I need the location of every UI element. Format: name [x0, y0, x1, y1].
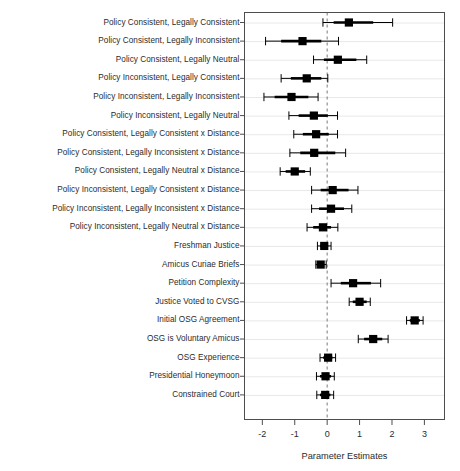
point-estimate-marker	[345, 18, 353, 26]
point-estimate-marker	[312, 130, 320, 138]
category-label: Presidential Honeymoon	[149, 372, 239, 380]
category-label: Constrained Court	[172, 391, 239, 399]
category-label: Policy Inconsistent, Legally Neutral x D…	[70, 223, 240, 231]
category-label: OSG Experience	[177, 354, 239, 362]
point-estimate-marker	[303, 74, 311, 82]
point-estimate-marker	[291, 167, 299, 175]
x-tick-label: 1	[357, 430, 362, 439]
point-estimate-marker	[324, 354, 332, 362]
category-label: Policy Consistent, Legally Consistent	[103, 18, 239, 26]
category-label: Policy Consistent, Legally Neutral x Dis…	[75, 167, 240, 175]
x-axis-title: Parameter Estimates	[302, 452, 388, 461]
point-estimate-marker	[327, 205, 335, 213]
point-estimate-marker	[319, 223, 327, 231]
category-label: Initial OSG Agreement	[157, 316, 240, 324]
point-estimate-marker	[317, 260, 325, 268]
coefficient-plot-figure: Policy Consistent, Legally ConsistentPol…	[0, 0, 460, 471]
point-estimate-marker	[321, 391, 329, 399]
point-estimate-marker	[411, 316, 419, 324]
x-tick-label: -2	[258, 430, 266, 439]
category-label: Petition Complexity	[168, 279, 239, 287]
point-estimate-marker	[334, 56, 342, 64]
x-tick-label: 0	[325, 430, 330, 439]
point-estimate-marker	[310, 149, 318, 157]
point-estimate-marker	[329, 186, 337, 194]
x-tick-label: 3	[422, 430, 427, 439]
category-label: Justice Voted to CVSG	[155, 298, 239, 306]
category-label: OSG is Voluntary Amicus	[147, 335, 240, 343]
plot-canvas	[0, 0, 460, 471]
x-tick-label: -1	[291, 430, 299, 439]
point-estimate-marker	[321, 372, 329, 380]
category-label: Amicus Curiae Briefs	[162, 260, 239, 268]
category-label: Policy Consistent, Legally Consistent x …	[62, 130, 239, 138]
category-label: Policy Inconsistent, Legally Consistent	[98, 74, 239, 82]
category-label: Policy Consistent, Legally Neutral	[116, 56, 240, 64]
point-estimate-marker	[355, 298, 363, 306]
point-estimate-marker	[310, 112, 318, 120]
category-label: Policy Consistent, Legally Inconsistent …	[57, 149, 239, 157]
point-estimate-marker	[287, 93, 295, 101]
category-label: Policy Inconsistent, Legally Inconsisten…	[52, 205, 239, 213]
category-label: Policy Consistent, Legally Inconsistent	[98, 37, 239, 45]
category-label: Freshman Justice	[174, 242, 239, 250]
point-estimate-marker	[298, 37, 306, 45]
point-estimate-marker	[349, 279, 357, 287]
x-tick-label: 2	[389, 430, 394, 439]
category-label: Policy Inconsistent, Legally Consistent …	[57, 186, 239, 194]
category-label: Policy Inconsistent, Legally Neutral	[111, 111, 240, 119]
point-estimate-marker	[369, 335, 377, 343]
point-estimate-marker	[320, 242, 328, 250]
category-label: Policy Inconsistent, Legally Inconsisten…	[93, 93, 239, 101]
